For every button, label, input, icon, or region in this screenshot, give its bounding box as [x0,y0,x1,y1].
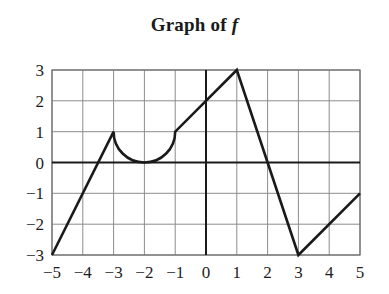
function-graph-plot-area: 3 2 1 0 −1 −2 −3 −5 −4 −3 −2 −1 0 1 2 3 … [0,0,389,294]
x-tick-label--3: −3 [105,263,123,282]
y-tick-label-1: 1 [36,123,45,142]
x-tick-label-5: 5 [356,263,365,282]
y-tick-label-2: 2 [36,92,45,111]
x-tick-label--2: −2 [135,263,153,282]
x-tick-label--5: −5 [43,263,61,282]
x-tick-label--1: −1 [166,263,184,282]
y-tick-label--2: −2 [26,215,44,234]
x-tick-label-2: 2 [263,263,272,282]
x-tick-labels: −5 −4 −3 −2 −1 0 1 2 3 4 5 [43,263,364,282]
x-tick-label-3: 3 [294,263,303,282]
x-tick-label-4: 4 [325,263,334,282]
chart-figure: Graph of f [0,0,389,294]
x-tick-label-0: 0 [202,263,211,282]
y-tick-label-0: 0 [36,154,45,173]
y-tick-label-3: 3 [36,61,45,80]
y-tick-label--1: −1 [26,184,44,203]
x-tick-label--4: −4 [74,263,93,282]
x-tick-label-1: 1 [233,263,242,282]
y-tick-labels: 3 2 1 0 −1 −2 −3 [26,61,44,265]
y-tick-label--3: −3 [26,246,44,265]
